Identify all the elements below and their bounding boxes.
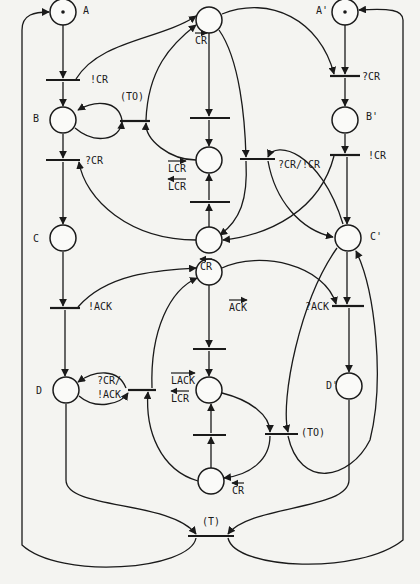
message-label-lbl-lcr-up: LCR [168,161,187,174]
transition-t-lcr-B2: !CR [330,150,387,161]
transition-label: ?ACK [305,301,329,312]
place-D: D [36,377,79,403]
place-Bp: B' [332,107,378,133]
place-label: C' [370,231,382,242]
message-label-text: LCR [168,163,187,174]
transition-label: (TO) [301,427,325,438]
arc-tTO-to-P1 [146,25,196,120]
arc-tTObot-to-P6 [224,436,270,478]
message-label-text: LCR [168,181,187,192]
place-p2 [196,147,222,173]
arc-tqcrlcr-to-P3 [220,161,246,235]
transition-label: (T) [202,516,220,527]
place-B: B [33,107,76,133]
place-circle [196,7,222,33]
message-label-text: CR [232,485,245,496]
place-label: B' [366,111,378,122]
place-label: D [36,385,42,396]
place-p6 [198,468,224,494]
transition-t-to-top: (TO) [120,91,150,121]
transition-label: ?CR [85,155,104,166]
place-A: A [50,0,89,25]
transition-label: (TO) [120,91,144,102]
message-label-lbl-qcr-ack2: !ACK [97,389,121,400]
message-label-lbl-lcr-dn: LCR [168,179,187,192]
message-label-lbl-cr-bot: CR [232,483,245,496]
place-label: C [33,233,39,244]
place-p3 [196,227,222,253]
place-Dp: D' [326,373,362,399]
transition-t-qcr-lcr: ?CR/!CR [240,159,321,170]
place-C: C [33,225,76,251]
arc-tTO-to-B [78,103,122,120]
arc-D-to-tT [66,404,196,534]
transition-label: !ACK [88,301,112,312]
message-label-text: LCR [171,393,190,404]
arc-P2-to-tTO [146,123,196,160]
transition-t-qack-C2: ?ACK [305,301,364,312]
arc-P4-to-tqack [222,260,336,304]
arc-tT-to-A [22,12,196,567]
message-label-lbl-qcr-ack1: ?CR/ [97,375,121,386]
place-circle [336,373,362,399]
place-circle [198,468,224,494]
arc-tlcr-to-P1 [76,16,196,79]
arc-Cp-loop-to-tTObot [286,248,337,432]
transition-t-qcr-B: ?CR [46,155,104,166]
place-label: D' [326,380,338,391]
transition-t-ack-C: !ACK [50,301,112,312]
token-dot [343,10,347,14]
transition-label: ?CR [362,71,381,82]
petri-net-diagram: ABCDA'B'C'D' !CR(TO)?CR!ACK?CR/!CR?CR!CR… [0,0,420,584]
transition-label: ?CR/!CR [278,159,321,170]
message-label-text: LACK [171,375,195,386]
place-label: A' [316,5,328,16]
place-Cp: C' [335,225,382,251]
arc-B-to-tTO [75,122,122,138]
labels: CRLCRLCRCRACKLACKLCR?CR/!ACKCR [97,33,247,496]
place-circle [196,227,222,253]
message-label-text: ACK [229,302,247,313]
message-label-lbl-ack: ACK [229,300,247,313]
arc-P1-to-tqcrlcr [219,30,246,157]
arc-Dp-to-tT [228,400,349,534]
place-p1 [196,7,222,33]
place-label: B [33,113,39,124]
transition-label: !CR [90,74,109,85]
place-circle [50,225,76,251]
arc-P6-to-tDloop [148,392,198,481]
places: ABCDA'B'C'D' [33,0,382,494]
arc-P1-to-tqcrA2 [222,8,334,74]
message-label-lbl-lcr2: LCR [171,391,190,404]
transition-label: !CR [368,150,387,161]
place-Ap: A' [316,0,358,25]
arc-tTObot-loop-to-Cp [288,251,377,473]
place-label: A [83,5,89,16]
place-circle [53,377,79,403]
place-circle [196,147,222,173]
place-circle [50,107,76,133]
transition-t-qcr-A2: ?CR [330,71,381,82]
message-label-text: CR [200,261,213,272]
arc-tDloop-loop-to-P4 [152,278,197,388]
transition-t-to-bot: (TO) [265,427,325,438]
message-label-text: !ACK [97,389,121,400]
message-label-lbl-lack: LACK [171,373,195,386]
message-label-text: CR [195,35,208,46]
arc-P5-to-tTObot [222,393,270,432]
place-circle [196,377,222,403]
arc-tqcrlcr-to-Cp [268,161,333,237]
message-label-lbl-cr-mid: CR [200,259,213,272]
token-dot [61,10,65,14]
place-circle [335,225,361,251]
message-label-text: ?CR/ [97,375,121,386]
message-label-lbl-cr-top: CR [195,33,208,46]
place-circle [332,107,358,133]
place-p5 [196,377,222,403]
